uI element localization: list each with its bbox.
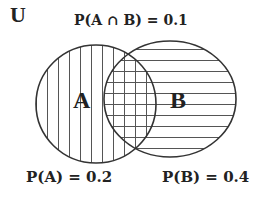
intersection-probability-label: P(A ∩ B) = 0.1 bbox=[74, 12, 188, 28]
set-b-probability-label: P(B) = 0.4 bbox=[162, 168, 249, 186]
set-a-probability-label: P(A) = 0.2 bbox=[26, 168, 112, 186]
venn-diagram: U P(A ∩ B) = 0.1 A B P(A) = 0.2 P(B) = 0… bbox=[0, 0, 267, 203]
universe-label: U bbox=[10, 2, 26, 28]
set-b-label: B bbox=[170, 87, 186, 114]
set-a-label: A bbox=[73, 87, 90, 114]
